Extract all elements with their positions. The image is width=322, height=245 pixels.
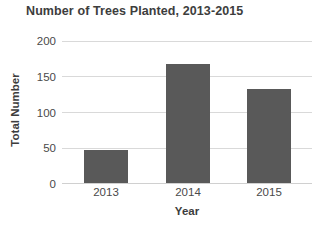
x-tick-label-2015: 2015 [234, 186, 304, 198]
y-tick-label-50: 50 [16, 142, 56, 154]
bar-2015[interactable] [247, 89, 291, 183]
bars-group [62, 41, 312, 183]
bar-2014[interactable] [166, 64, 210, 183]
y-tick-label-200: 200 [16, 35, 56, 47]
y-axis-title: Total Number [9, 55, 21, 165]
bar-chart-figure: Number of Trees Planted, 2013-2015 Total… [0, 0, 322, 245]
plot-area [62, 41, 312, 154]
x-tick-label-2013: 2013 [71, 186, 141, 198]
y-tick-label-150: 150 [16, 71, 56, 83]
x-axis-title: Year [62, 205, 312, 217]
y-tick-label-100: 100 [16, 107, 56, 119]
y-tick-label-0: 0 [16, 178, 56, 190]
bar-2013[interactable] [84, 150, 128, 183]
gridline-baseline-0 [62, 183, 312, 184]
x-tick-label-2014: 2014 [153, 186, 223, 198]
chart-title: Number of Trees Planted, 2013-2015 [26, 4, 243, 18]
